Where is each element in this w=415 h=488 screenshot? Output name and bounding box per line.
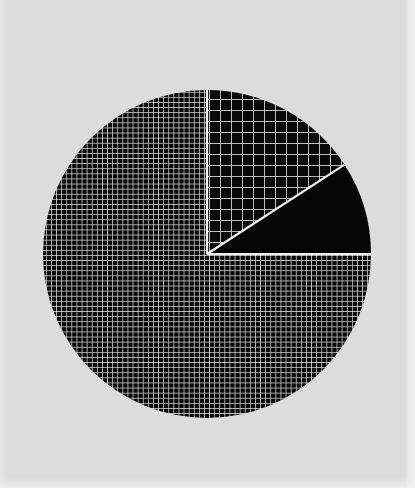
pie-chart — [0, 0, 415, 488]
pie-chart-page — [0, 0, 415, 488]
chart-area — [0, 0, 415, 488]
